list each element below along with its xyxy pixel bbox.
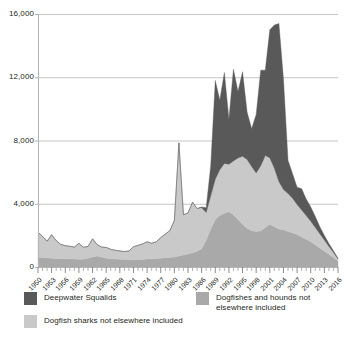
legend-label-dogfishes-and-hounds: Dogfishes and hounds not elsewhere inclu… xyxy=(216,292,341,313)
y-axis-tick-label: 4,000 xyxy=(0,199,34,208)
legend-item-dogfish-sharks: Dogfish sharks not elsewhere included xyxy=(24,315,199,328)
plot-area: 04,0008,00012,00016,000 1950195319561959… xyxy=(0,0,344,278)
legend-label-dogfish-sharks: Dogfish sharks not elsewhere included xyxy=(44,315,183,326)
chart-root: 04,0008,00012,00016,000 1950195319561959… xyxy=(0,0,344,344)
chart-legend: Deepwater Squalids Dogfish sharks not el… xyxy=(0,288,344,344)
area-chart-svg xyxy=(0,0,344,278)
legend-swatch-deepwater-squalids xyxy=(24,292,37,305)
y-axis-tick-label: 16,000 xyxy=(0,9,34,18)
legend-swatch-dogfishes-and-hounds xyxy=(196,292,209,305)
y-axis-tick-label: 12,000 xyxy=(0,72,34,81)
y-axis-tick-label: 0 xyxy=(0,262,34,271)
legend-item-deepwater-squalids: Deepwater Squalids xyxy=(24,292,189,305)
y-axis-tick-label: 8,000 xyxy=(0,136,34,145)
legend-item-dogfishes-and-hounds: Dogfishes and hounds not elsewhere inclu… xyxy=(196,292,341,313)
legend-swatch-dogfish-sharks xyxy=(24,315,37,328)
legend-label-deepwater-squalids: Deepwater Squalids xyxy=(44,292,117,303)
